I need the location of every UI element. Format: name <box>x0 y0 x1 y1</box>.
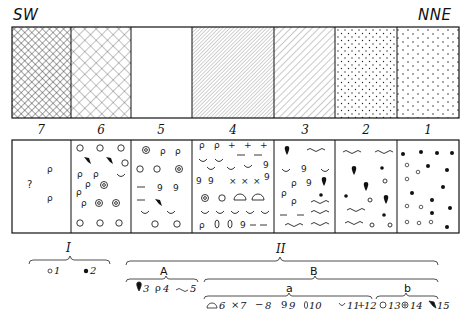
legend-item-4-symbol: ρ <box>155 282 161 293</box>
profile-diagram: ? ρ ρ ρρ ρρρ <box>0 0 471 323</box>
legend-item-10: 10 <box>309 300 322 311</box>
legend-group-I-label: I <box>66 241 71 255</box>
column-number-4: 4 <box>223 123 243 137</box>
svg-text:+: + <box>228 140 236 150</box>
svg-text:ρ: ρ <box>291 196 297 206</box>
svg-text:ρ: ρ <box>281 188 287 198</box>
svg-text:ρ: ρ <box>81 198 87 208</box>
legend-item-14: 14 <box>410 300 423 311</box>
svg-text:ρ: ρ <box>93 169 99 179</box>
svg-text:ρ: ρ <box>47 193 53 203</box>
svg-text:?: ? <box>27 179 32 190</box>
svg-text:ρ: ρ <box>76 187 82 197</box>
svg-text:ρ: ρ <box>199 220 205 230</box>
svg-text:9: 9 <box>208 176 214 186</box>
svg-text:×: × <box>241 176 249 186</box>
bottom-fauna-strip: ? ρ ρ ρρ ρρρ <box>12 140 459 233</box>
svg-text:ρ: ρ <box>214 140 220 150</box>
column-number-1: 1 <box>418 123 438 137</box>
svg-text:ρ: ρ <box>175 146 181 156</box>
column-number-2: 2 <box>356 123 376 137</box>
legend-item-8: 8 <box>265 300 271 311</box>
svg-text:9: 9 <box>301 164 307 174</box>
legend-item-7: 7 <box>240 300 246 311</box>
svg-text:9: 9 <box>264 172 270 182</box>
legend-group-B-label: B <box>310 265 318 278</box>
legend-item-15: 15 <box>437 300 450 311</box>
svg-text:9: 9 <box>240 220 246 230</box>
legend-item-3: 3 <box>143 283 149 294</box>
legend-group-a-label: a <box>286 282 293 295</box>
column-number-5: 5 <box>151 123 171 137</box>
svg-text:×: × <box>229 176 237 186</box>
column-number-7: 7 <box>31 123 51 137</box>
legend-item-8-symbol: − <box>255 299 263 310</box>
svg-text:ρ: ρ <box>199 140 205 150</box>
legend-group-b-label: b <box>404 282 411 295</box>
legend-item-9-symbol: 9 <box>281 299 287 310</box>
legend-item-1: 1 <box>54 265 60 276</box>
svg-text:ρ: ρ <box>47 164 53 174</box>
svg-text:9: 9 <box>263 160 269 170</box>
svg-text:+: + <box>260 140 268 150</box>
legend-item-2: 2 <box>90 265 96 276</box>
svg-text:+: + <box>244 140 252 150</box>
legend-item-13: 13 <box>388 300 401 311</box>
svg-text:9: 9 <box>157 183 163 193</box>
column-number-6: 6 <box>91 123 111 137</box>
svg-text:ρ: ρ <box>160 146 166 156</box>
svg-text:9: 9 <box>196 176 202 186</box>
legend-item-12: 12 <box>364 300 377 311</box>
svg-text:9: 9 <box>306 178 312 188</box>
top-lithology-strip <box>12 27 459 118</box>
svg-text:ρ: ρ <box>291 178 297 188</box>
legend-item-4: 4 <box>163 283 169 294</box>
legend-item-6: 6 <box>219 300 225 311</box>
svg-text:ρ: ρ <box>77 169 83 179</box>
column-number-3: 3 <box>295 123 315 137</box>
svg-text:ρ: ρ <box>85 179 91 189</box>
svg-text:9: 9 <box>173 183 179 193</box>
legend-item-5: 5 <box>190 283 196 294</box>
legend-group-II-label: II <box>276 242 285 256</box>
legend-braces <box>29 256 438 299</box>
svg-text:×: × <box>253 176 261 186</box>
legend-item-9: 9 <box>289 300 295 311</box>
legend-group-A-label: A <box>160 265 168 278</box>
legend-item-7-symbol: × <box>231 299 239 310</box>
